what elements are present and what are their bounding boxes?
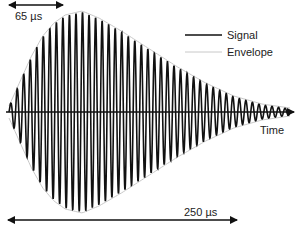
duration-label: 250 µs bbox=[184, 206, 217, 218]
legend-envelope-label: Envelope bbox=[227, 46, 273, 58]
legend-signal-label: Signal bbox=[227, 29, 258, 41]
rise-time-label: 65 µs bbox=[15, 10, 42, 22]
x-axis-label: Time bbox=[260, 124, 284, 136]
